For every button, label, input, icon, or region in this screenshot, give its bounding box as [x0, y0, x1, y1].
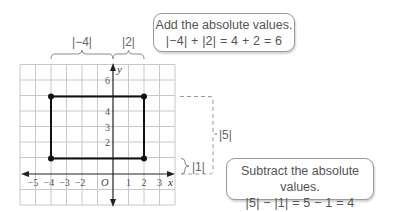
x-tick-label: 1 [126, 177, 131, 188]
subtract-callout: Subtract the absolute values. |5| − |1| … [226, 158, 374, 200]
brace-label-2: |2| [122, 35, 135, 49]
origin-label: O [101, 177, 109, 188]
vertex-point [141, 94, 147, 100]
brace-right-top [113, 50, 144, 59]
brace-label-neg4: |−4| [72, 35, 92, 49]
brace-label-1: |1| [192, 160, 205, 174]
brace-left-top [51, 50, 113, 59]
x-axis-label: x [167, 176, 173, 188]
x-tick-label: 2 [142, 177, 147, 188]
x-tick-label: 3 [157, 177, 162, 188]
y-tick-label: 2 [105, 137, 110, 148]
y-tick-label: 4 [105, 106, 110, 117]
y-tick-label: 6 [105, 75, 110, 86]
subtract-callout-equation: |5| − |1| = 5 − 1 = 4 [227, 195, 373, 211]
add-callout-title: Add the absolute values. [154, 17, 294, 33]
brace-label-5: |5| [219, 128, 232, 142]
y-axis-bottom-arrow-icon [110, 199, 116, 207]
vertex-point [48, 94, 54, 100]
x-tick-label: −2 [75, 177, 86, 188]
brace-1 [181, 159, 189, 175]
x-tick-label: −5 [28, 177, 39, 188]
x-tick-label: −3 [59, 177, 70, 188]
subtract-callout-title: Subtract the absolute values. [227, 163, 373, 195]
vertex-point [141, 156, 147, 162]
add-callout-equation: |−4| + |2| = 4 + 2 = 6 [154, 33, 294, 49]
y-tick-label: 3 [105, 122, 110, 133]
vertex-point [48, 156, 54, 162]
x-tick-label: −4 [44, 177, 55, 188]
y-axis-label: y [116, 63, 122, 75]
add-callout: Add the absolute values. |−4| + |2| = 4 … [153, 13, 295, 52]
